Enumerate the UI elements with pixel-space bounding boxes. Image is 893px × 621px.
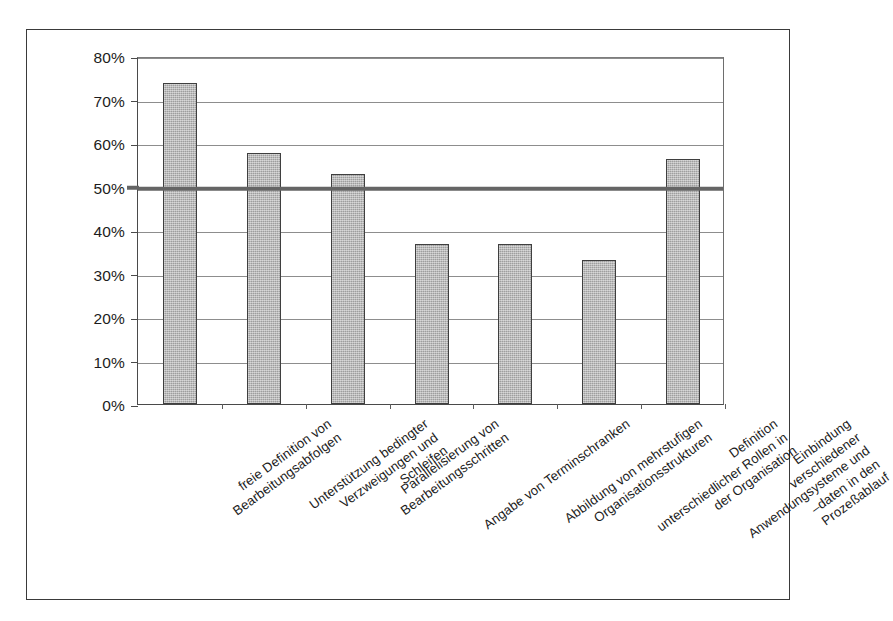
- x-axis-tick: [390, 404, 391, 409]
- bar: [415, 244, 449, 405]
- y-axis-tick: [131, 58, 138, 59]
- reference-line-axis-stub: [127, 185, 139, 190]
- y-axis-tick-label: 20%: [93, 310, 125, 328]
- bar: [582, 260, 616, 404]
- bar: [163, 83, 197, 404]
- bar: [331, 174, 365, 404]
- plot-area: 0%10%20%30%40%50%60%70%80%: [137, 57, 724, 405]
- y-axis-tick: [131, 362, 138, 363]
- x-axis-tick: [306, 404, 307, 409]
- gridline: [138, 102, 723, 103]
- bar: [666, 159, 700, 404]
- x-axis-tick: [473, 404, 474, 409]
- y-axis-tick: [131, 275, 138, 276]
- y-axis-tick-label: 0%: [102, 397, 125, 415]
- y-axis-tick: [131, 406, 138, 407]
- reference-line-50-percent: [138, 186, 723, 191]
- x-axis-tick: [557, 404, 558, 409]
- y-axis-tick: [131, 101, 138, 102]
- y-axis-tick-label: 50%: [93, 180, 125, 198]
- y-axis-tick-label: 40%: [93, 223, 125, 241]
- y-axis-tick-label: 70%: [93, 93, 125, 111]
- gridline: [138, 58, 723, 59]
- y-axis-tick-label: 60%: [93, 136, 125, 154]
- x-axis-tick: [725, 404, 726, 409]
- y-axis-tick-label: 10%: [93, 354, 125, 372]
- gridline: [138, 145, 723, 146]
- y-axis-tick-label: 30%: [93, 267, 125, 285]
- y-axis-tick-label: 80%: [93, 49, 125, 67]
- y-axis-tick: [131, 319, 138, 320]
- x-axis-tick: [641, 404, 642, 409]
- x-axis-tick: [222, 404, 223, 409]
- y-axis-tick: [131, 145, 138, 146]
- y-axis-tick: [131, 232, 138, 233]
- bar: [498, 244, 532, 405]
- gridline: [138, 232, 723, 233]
